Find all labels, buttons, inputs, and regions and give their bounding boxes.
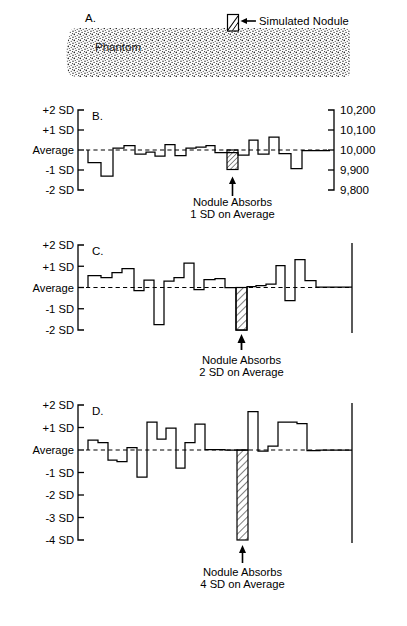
- panel-b-y2tick-9800: 9,800: [340, 183, 369, 196]
- panel-b-caption-line1: Nodule Absorbs: [193, 196, 272, 208]
- panel-c-ytick-2: +2 SD: [43, 239, 74, 251]
- figure-svg: A. Phantom Simulated Nodule: [0, 0, 407, 626]
- panel-d-ytick-2: +2 SD: [43, 399, 74, 411]
- phantom-body: [60, 25, 360, 83]
- panel-c-step-trace: [88, 260, 352, 331]
- panel-c-ytick-m1: -1 SD: [45, 303, 74, 315]
- panel-b-ytick-2: +2 SD: [43, 104, 74, 116]
- simulated-nodule-annotation: Simulated Nodule: [259, 15, 349, 27]
- figure-root: A. Phantom Simulated Nodule: [0, 0, 407, 626]
- panel-c-ytick-m2: -2 SD: [45, 324, 74, 336]
- panel-b-ytick-m2: -2 SD: [45, 184, 74, 196]
- panel-d-ytick-0: Average: [33, 444, 74, 456]
- panel-b-ytick-1: +1 SD: [43, 124, 74, 136]
- panel-c-caption-line2: 2 SD on Average: [199, 366, 283, 378]
- panel-d-step-trace: [88, 412, 352, 478]
- panel-d-ytick-1: +1 SD: [43, 422, 74, 434]
- panel-d: +2 SD +1 SD Average -1 SD -2 SD -3 SD -4…: [33, 399, 352, 590]
- panel-c-caption-line1: Nodule Absorbs: [202, 354, 281, 366]
- panel-d-ytick-m3: -3 SD: [45, 512, 74, 524]
- panel-b-ytick-m1: -1 SD: [45, 164, 74, 176]
- panel-a-label: A.: [85, 12, 96, 24]
- panel-c-nodule-block: [236, 288, 247, 331]
- panel-d-label: D.: [92, 405, 104, 417]
- panel-b-caption-line2: 1 SD on Average: [190, 208, 274, 220]
- left-arrow-icon: [241, 18, 257, 24]
- panel-c-nodule-arrow-icon: [238, 334, 246, 350]
- panel-c-ytick-0: Average: [33, 282, 74, 294]
- hatched-nodule-icon: [228, 15, 239, 32]
- panel-b-y2tick-9900: 9,900: [340, 163, 369, 176]
- panel-d-ytick-m2: -2 SD: [45, 489, 74, 501]
- panel-c-label: C.: [92, 245, 104, 257]
- panel-b-label: B.: [92, 110, 103, 122]
- panel-a: A. Phantom Simulated Nodule: [60, 12, 360, 83]
- phantom-label: Phantom: [95, 41, 141, 53]
- panel-d-ytick-m1: -1 SD: [45, 467, 74, 479]
- panel-b-nodule-arrow-icon: [229, 177, 236, 197]
- panel-b-step-trace: [88, 137, 330, 176]
- panel-d-caption-line1: Nodule Absorbs: [203, 566, 282, 578]
- panel-c: +2 SD +1 SD Average -1 SD -2 SD C. Nodul…: [33, 239, 352, 378]
- panel-b-y2tick-10000: 10,000: [340, 143, 375, 156]
- panel-b-y2tick-10200: 10,200: [340, 103, 375, 116]
- panel-b-nodule-block: [227, 150, 238, 170]
- panel-d-ytick-m4: -4 SD: [45, 534, 74, 546]
- panel-c-ytick-1: +1 SD: [43, 261, 74, 273]
- panel-d-caption-line2: 4 SD on Average: [200, 578, 284, 590]
- panel-d-nodule-arrow-icon: [239, 545, 246, 563]
- panel-b-ytick-0: Average: [33, 144, 74, 156]
- panel-d-nodule-block: [237, 450, 248, 540]
- panel-b-y2tick-10100: 10,100: [340, 123, 375, 136]
- panel-b: +2 SD +1 SD Average -1 SD -2 SD 10,200 1…: [33, 103, 376, 220]
